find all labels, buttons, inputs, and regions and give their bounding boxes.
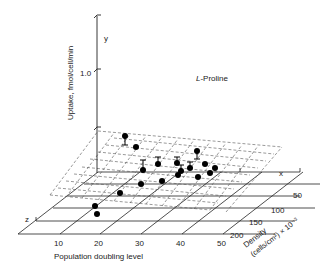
svg-text:50: 50 xyxy=(293,191,302,200)
svg-text:30: 30 xyxy=(135,239,144,248)
y-axis xyxy=(94,15,101,173)
scatter-3d-chart: y 1.0 Uptake, fmol/cell/min L-Proline x … xyxy=(0,0,321,271)
data-points xyxy=(92,133,218,217)
svg-text:10: 10 xyxy=(54,239,63,248)
y-axis-letter: y xyxy=(104,34,108,43)
svg-text:20: 20 xyxy=(94,239,103,248)
y-axis-label: Uptake, fmol/cell/min xyxy=(66,46,75,120)
x-axis-label: Population doubling level xyxy=(54,252,143,261)
floor-grid xyxy=(18,172,320,234)
x-axis-letter: x xyxy=(279,169,283,178)
svg-text:200: 200 xyxy=(230,231,244,240)
chart-title: L-Proline xyxy=(196,74,229,83)
x-tick-labels: 10 20 30 40 50 xyxy=(54,239,226,248)
svg-text:100: 100 xyxy=(271,206,285,215)
svg-text:150: 150 xyxy=(249,218,263,227)
z-axis-letter: z xyxy=(25,215,29,224)
svg-text:40: 40 xyxy=(176,239,185,248)
svg-text:50: 50 xyxy=(217,239,226,248)
fitted-plane-grid xyxy=(50,131,282,212)
y-tick-label: 1.0 xyxy=(80,69,92,78)
